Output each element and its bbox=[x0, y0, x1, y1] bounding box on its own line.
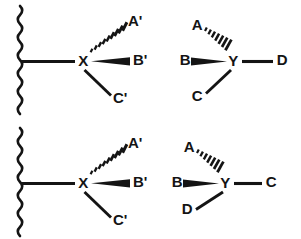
panel-top-right: A B Y D C bbox=[180, 16, 288, 104]
atom-label-c-bottom-right: C bbox=[266, 173, 277, 190]
bond-x-to-b-solid-wedge bbox=[91, 57, 130, 65]
atom-label-b-top-right: B bbox=[180, 51, 191, 68]
atom-label-c-top-right: C bbox=[192, 87, 203, 104]
bond-x-to-c-plain bbox=[85, 70, 112, 96]
panel-bottom-left: X A' B' C' bbox=[18, 128, 147, 236]
atom-label-x-bottom-left: X bbox=[78, 174, 88, 191]
atom-label-y-bottom-right: Y bbox=[220, 174, 230, 191]
bond-x-to-a-hashed-wedge-bottom bbox=[91, 144, 127, 174]
atom-label-b-bottom-left: B' bbox=[133, 173, 147, 190]
bond-y-to-b-solid-wedge-top-right bbox=[191, 57, 227, 65]
bond-x-to-c-plain-bottom bbox=[85, 192, 112, 218]
bond-y-to-a-hashed-wedge-bottom-right bbox=[197, 150, 223, 173]
stereochemistry-figure: X A' B' C' A B Y bbox=[0, 0, 301, 239]
bond-x-to-a-hashed-wedge bbox=[91, 22, 127, 52]
atom-label-x-top-left: X bbox=[78, 52, 88, 69]
atom-label-a-bottom-left: A' bbox=[128, 134, 142, 151]
atom-label-d-bottom-right: D bbox=[182, 200, 193, 217]
atom-label-b-bottom-right: B bbox=[172, 173, 183, 190]
bond-y-to-c-plain-top-right bbox=[206, 70, 231, 94]
bond-y-to-a-hashed-wedge-top-right bbox=[205, 28, 231, 51]
atom-label-b-top-left: B' bbox=[133, 51, 147, 68]
atom-label-a-top-left: A' bbox=[128, 12, 142, 29]
atom-label-a-top-right: A bbox=[192, 16, 203, 33]
atom-label-y-top-right: Y bbox=[228, 52, 238, 69]
atom-label-c-bottom-left: C' bbox=[113, 211, 127, 228]
bond-y-to-d-plain-bottom-right bbox=[196, 192, 223, 210]
figure-canvas: X A' B' C' A B Y bbox=[0, 0, 301, 239]
atom-label-d-top-right: D bbox=[277, 51, 288, 68]
bond-y-to-b-solid-wedge-bottom-right bbox=[183, 179, 219, 187]
atom-label-c-top-left: C' bbox=[113, 89, 127, 106]
panel-top-left: X A' B' C' bbox=[18, 6, 147, 114]
atom-label-a-bottom-right: A bbox=[184, 138, 195, 155]
bond-x-to-b-solid-wedge-bottom bbox=[91, 179, 130, 187]
panel-bottom-right: A B Y C D bbox=[172, 138, 277, 217]
